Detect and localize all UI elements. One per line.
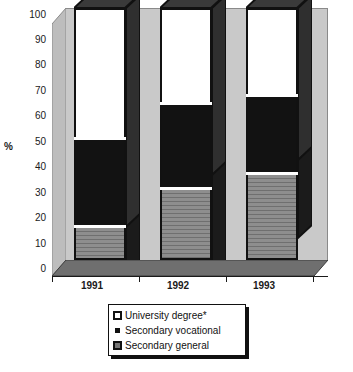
bar-1993[interactable] [246,8,298,260]
bar-1992-segment-university-degree[interactable] [160,8,212,104]
bar-1993-side-3d [298,0,312,260]
x-axis-label-1993: 1993 [234,280,294,291]
x-tick-mark [313,276,314,282]
y-tick-label: 80 [20,59,46,70]
x-tick-mark [226,276,227,282]
legend-item-secondary-general[interactable]: Secondary general [113,338,241,353]
bar-1991-separator [74,137,126,140]
bar-1991-separator [74,225,126,228]
y-tick-label: 70 [20,85,46,96]
bar-1991-segment-secondary-vocational[interactable] [74,139,126,227]
bar-1993-segment-secondary-vocational[interactable] [246,96,298,174]
y-tick-label: 60 [20,110,46,121]
bar-1991-side-3d [126,0,140,260]
x-axis-label-1991: 1991 [62,280,122,291]
plot-left-wall [52,8,66,276]
bar-1992[interactable] [160,8,212,260]
x-axis-label-1992: 1992 [148,280,208,291]
legend-label: University degree* [125,310,207,321]
legend-label: Secondary vocational [125,325,221,336]
bar-1993-separator [246,94,298,97]
y-tick-label: 100 [20,9,46,20]
y-tick-label: 90 [20,34,46,45]
bar-1993-separator [246,172,298,175]
x-tick-mark [139,276,140,282]
legend-white-square-icon [113,311,122,320]
bar-1991-segment-university-degree[interactable] [74,8,126,139]
bar-1991-segment-secondary-general[interactable] [74,227,126,260]
plot-area [52,8,328,276]
y-tick-label: 0 [20,263,46,274]
legend-item-university-degree[interactable]: University degree* [113,308,241,323]
bar-1992-segment-secondary-general[interactable] [160,189,212,260]
bar-1993-segment-secondary-general[interactable] [246,174,298,260]
bar-1993-top-3d [246,0,311,8]
legend-black-dot-icon [113,326,122,335]
bar-1992-segment-secondary-vocational[interactable] [160,104,212,189]
legend-item-secondary-vocational[interactable]: Secondary vocational [113,323,241,338]
x-axis-line [52,276,328,277]
plot-floor [52,260,328,276]
chart-container: % 100 90 80 70 60 50 40 30 20 10 0 [0,0,353,372]
bar-1992-top-3d [160,0,225,8]
y-tick-label: 50 [20,136,46,147]
legend-label: Secondary general [125,340,209,351]
y-tick-label: 40 [20,161,46,172]
chart-legend: University degree* Secondary vocational … [108,304,246,356]
y-axis: 100 90 80 70 60 50 40 30 20 10 0 [20,0,46,290]
y-tick-label: 20 [20,212,46,223]
y-tick-label: 10 [20,238,46,249]
y-axis-title: % [4,141,13,152]
bar-1992-side-3d [212,0,226,260]
bar-1991-top-3d [74,0,139,8]
legend-gray-square-icon [113,341,122,350]
bar-1993-segment-university-degree[interactable] [246,8,298,96]
bar-1992-separator [160,187,212,190]
y-tick-label: 30 [20,187,46,198]
bar-1991[interactable] [74,8,126,260]
x-tick-mark [52,276,53,282]
bar-1992-separator [160,102,212,105]
